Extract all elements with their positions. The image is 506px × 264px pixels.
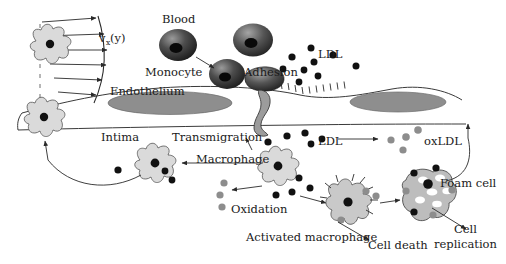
- label-cell-replication-line2: replication: [434, 237, 498, 251]
- label-foam-cell: Foam cell: [440, 176, 497, 190]
- oxldl-particle: [414, 126, 422, 134]
- oxldl-particle: [387, 136, 394, 143]
- lipid-droplet: [415, 197, 425, 204]
- ingested-ldl: [169, 177, 176, 184]
- ldl-particle: [301, 67, 308, 74]
- ldl-particle: [114, 166, 121, 173]
- ldl-particle: [289, 189, 296, 196]
- label-transmigration: Transmigration: [172, 130, 263, 144]
- velocity-label: v: [98, 31, 106, 45]
- label-intima: Intima: [101, 130, 139, 144]
- cell-nucleus: [343, 197, 352, 206]
- ldl-particle: [432, 164, 439, 171]
- label-activated-macrophage: Activated macrophage: [245, 230, 377, 244]
- ldl-particle: [296, 79, 303, 86]
- label-cell-death: Cell death: [368, 238, 428, 252]
- cell-nucleus: [40, 113, 48, 121]
- ldl-particle: [315, 73, 322, 80]
- ldl-particle: [308, 141, 315, 148]
- ldl-particle: [311, 59, 318, 66]
- atherosclerosis-diagram: v x (y): [0, 0, 506, 264]
- cell-nucleus: [423, 179, 433, 189]
- cell-nucleus: [46, 40, 54, 48]
- label-adhesion: Adhesion: [243, 65, 298, 79]
- lipid-droplet: [432, 201, 442, 207]
- oxldl-particle: [429, 211, 436, 218]
- label-blood: Blood: [162, 12, 196, 26]
- ldl-particle: [301, 129, 308, 136]
- ldl-particle: [410, 208, 417, 215]
- label-cell-replication-line1: Cell: [454, 222, 477, 236]
- oxldl-particle: [362, 187, 369, 194]
- monocyte-rolling: [209, 59, 245, 89]
- ldl-particle: [296, 175, 303, 182]
- monocyte-nucleus: [219, 72, 231, 81]
- ldl-particle: [288, 53, 295, 60]
- monocyte-free-2: [233, 24, 273, 57]
- cell-nucleus: [274, 162, 283, 171]
- ldl-particle: [410, 169, 417, 176]
- oxldl-particle: [402, 133, 410, 141]
- ldl-particle: [308, 45, 315, 52]
- ldl-particle: [283, 132, 290, 139]
- velocity-label-arg: (y): [110, 31, 125, 45]
- endothelial-nucleus-right: [350, 92, 446, 112]
- ldl-particle: [264, 138, 271, 145]
- lipid-droplet: [427, 188, 438, 195]
- ldl-particle: [353, 63, 360, 70]
- diagram-canvas: v x (y): [0, 0, 506, 264]
- oxldl-particle: [399, 146, 406, 153]
- label-endothelium: Endothelium: [110, 84, 185, 98]
- oxldl-particle: [402, 187, 409, 194]
- label-oxidation: Oxidation: [231, 202, 288, 216]
- ldl-particle: [273, 192, 280, 199]
- monocyte-nucleus: [170, 43, 183, 53]
- label-macrophage: Macrophage: [196, 152, 269, 166]
- oxldl-particle: [372, 192, 379, 199]
- ldl-particle: [307, 185, 314, 192]
- oxldl-particle: [218, 203, 225, 210]
- monocyte-nucleus: [245, 38, 258, 48]
- oxldl-particle: [220, 179, 227, 186]
- cell-nucleus: [151, 159, 160, 168]
- label-ldl-lumen: LDL: [318, 47, 343, 61]
- oxldl-particle: [216, 191, 223, 198]
- label-ldl-intima: LDL: [318, 134, 343, 148]
- label-monocyte: Monocyte: [145, 65, 203, 79]
- label-oxldl: oxLDL: [424, 134, 462, 148]
- monocyte-free-1: [159, 29, 197, 61]
- ingested-ldl: [162, 168, 169, 175]
